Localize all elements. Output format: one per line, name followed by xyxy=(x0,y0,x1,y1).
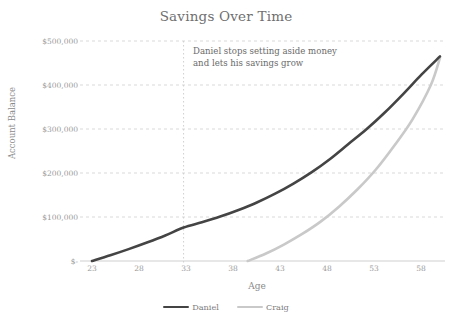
line-series-daniel xyxy=(92,56,440,261)
legend-label: Craig xyxy=(266,302,289,312)
annotation-line-1: Daniel stops setting aside money xyxy=(193,46,337,56)
legend-swatch-icon xyxy=(163,306,189,309)
savings-over-time-chart: Savings Over Time Account Balance $500,0… xyxy=(0,0,452,332)
line-series-craig xyxy=(248,58,440,261)
annotation-line-2: and lets his savings grow xyxy=(193,58,303,68)
chart-legend: Daniel Craig xyxy=(0,302,452,312)
legend-label: Daniel xyxy=(192,302,219,312)
legend-swatch-icon xyxy=(237,306,263,309)
legend-item-craig[interactable]: Craig xyxy=(237,302,289,312)
annotation-text: Daniel stops setting aside money and let… xyxy=(193,46,337,69)
legend-item-daniel[interactable]: Daniel xyxy=(163,302,219,312)
